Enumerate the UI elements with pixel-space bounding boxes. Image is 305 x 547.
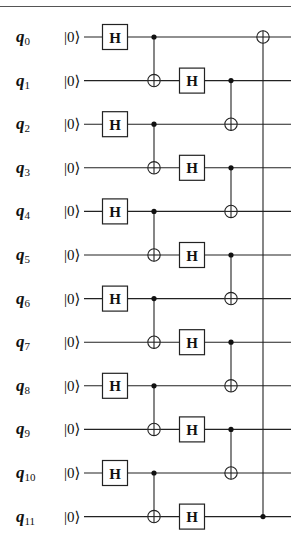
hadamard-label: H: [109, 204, 121, 220]
control-dot-icon: [228, 427, 233, 432]
hadamard-label: H: [109, 466, 121, 482]
initial-state-ket-4: |0⟩: [64, 203, 80, 219]
qubit-label-index: 3: [25, 166, 31, 178]
hadamard-gate-q3: H: [180, 155, 205, 180]
initial-state-ket-7: |0⟩: [64, 334, 80, 350]
qubit-label-index: 2: [25, 122, 31, 134]
initial-state-ket-3: |0⟩: [64, 160, 80, 176]
qubit-label-2: q2: [16, 114, 30, 134]
initial-state-ket-11: |0⟩: [64, 509, 80, 525]
vertical-lines-layer: [154, 31, 263, 523]
hadamard-gate-q2: H: [103, 112, 128, 137]
initial-state-ket-9: |0⟩: [64, 421, 80, 437]
initial-state-ket-8: |0⟩: [64, 378, 80, 394]
initial-state-ket-2: |0⟩: [64, 116, 80, 132]
control-dot-icon: [151, 209, 156, 214]
control-dot-icon: [260, 514, 265, 519]
hadamard-gate-q0: H: [103, 25, 128, 50]
control-dot-icon: [151, 34, 156, 39]
hadamard-label: H: [109, 30, 121, 46]
quantum-circuit-figure: q0|0⟩q1|0⟩q2|0⟩q3|0⟩q4|0⟩q5|0⟩q6|0⟩q7|0⟩…: [0, 0, 305, 547]
qubit-label-index: 4: [25, 209, 31, 221]
hadamard-label: H: [186, 335, 198, 351]
wires-layer: [84, 37, 291, 517]
initial-state-ket-1: |0⟩: [64, 73, 80, 89]
initial-state-ket-0: |0⟩: [64, 29, 80, 45]
qubit-label-4: q4: [16, 201, 31, 221]
hadamard-gate-q5: H: [180, 243, 205, 268]
qubit-label-7: q7: [16, 332, 31, 352]
qubit-label-index: 6: [25, 297, 31, 309]
qubit-label-index: 1: [25, 79, 31, 91]
qubit-label-index: 7: [25, 340, 31, 352]
labels-layer: q0|0⟩q1|0⟩q2|0⟩q3|0⟩q4|0⟩q5|0⟩q6|0⟩q7|0⟩…: [16, 27, 80, 527]
gates-layer: HHHHHHHHHHHH: [103, 25, 270, 530]
qubit-label-index: 5: [25, 253, 31, 265]
qubit-label-9: q9: [16, 419, 31, 439]
control-dot-icon: [151, 122, 156, 127]
hadamard-gate-q1: H: [180, 68, 205, 93]
hadamard-label: H: [186, 509, 198, 525]
hadamard-label: H: [186, 160, 198, 176]
qubit-label-index: 10: [25, 471, 37, 483]
hadamard-label: H: [109, 378, 121, 394]
hadamard-label: H: [186, 422, 198, 438]
qubit-label-index: 11: [25, 515, 36, 527]
initial-state-ket-10: |0⟩: [64, 465, 80, 481]
hadamard-gate-q8: H: [103, 373, 128, 398]
circuit-diagram: q0|0⟩q1|0⟩q2|0⟩q3|0⟩q4|0⟩q5|0⟩q6|0⟩q7|0⟩…: [0, 0, 305, 547]
qubit-label-index: 9: [25, 427, 31, 439]
hadamard-label: H: [109, 117, 121, 133]
initial-state-ket-6: |0⟩: [64, 291, 80, 307]
qubit-label-11: q11: [16, 507, 35, 527]
control-dot-icon: [228, 252, 233, 257]
initial-state-ket-5: |0⟩: [64, 247, 80, 263]
control-dot-icon: [151, 470, 156, 475]
qubit-label-0: q0: [16, 27, 31, 47]
hadamard-gate-q9: H: [180, 417, 205, 442]
hadamard-label: H: [186, 73, 198, 89]
control-dot-icon: [228, 165, 233, 170]
control-dot-icon: [151, 383, 156, 388]
qubit-label-1: q1: [16, 71, 30, 91]
hadamard-gate-q6: H: [103, 286, 128, 311]
qubit-label-8: q8: [16, 376, 31, 396]
hadamard-gate-q4: H: [103, 199, 128, 224]
control-dot-icon: [151, 296, 156, 301]
hadamard-gate-q10: H: [103, 461, 128, 486]
qubit-label-5: q5: [16, 245, 31, 265]
qubit-label-3: q3: [16, 158, 31, 178]
control-dot-icon: [228, 78, 233, 83]
qubit-label-6: q6: [16, 289, 31, 309]
qubit-label-10: q10: [16, 463, 36, 483]
hadamard-label: H: [186, 248, 198, 264]
qubit-label-index: 8: [25, 384, 31, 396]
hadamard-gate-q7: H: [180, 330, 205, 355]
control-dot-icon: [228, 340, 233, 345]
qubit-label-index: 0: [25, 35, 31, 47]
hadamard-label: H: [109, 291, 121, 307]
hadamard-gate-q11: H: [180, 504, 205, 529]
